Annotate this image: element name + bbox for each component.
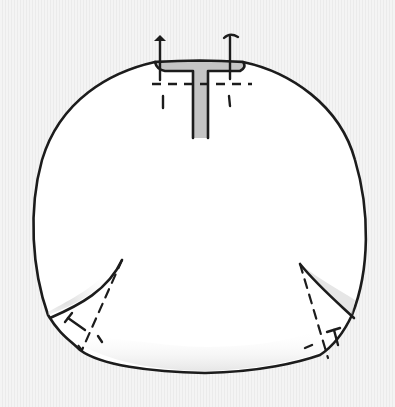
- pattern-sketch: [0, 0, 395, 407]
- sketch-canvas: [0, 0, 395, 407]
- right-short-mark: [229, 96, 230, 106]
